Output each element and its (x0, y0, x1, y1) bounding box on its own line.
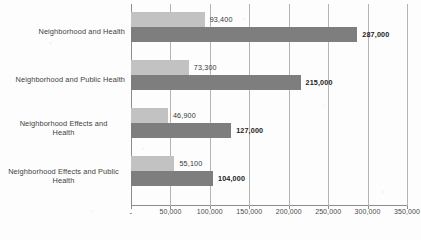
bar-dark-series-0 (131, 27, 357, 42)
category-label-neighborhood-effects-and-health: Neighborhood Effects and Health (0, 119, 127, 137)
bar-value-label-dark-series-3: 104,000 (218, 174, 245, 183)
category-label-line1: Neighborhood and Health (38, 27, 125, 36)
category-label-neighborhood-and-health: Neighborhood and Health (0, 27, 125, 36)
value-axis-label-300000: 300,000 (355, 208, 381, 215)
value-axis-tick-labels: -50,000100,000150,000200,000250,000300,0… (131, 208, 407, 222)
value-axis-label-200000: 200,000 (276, 208, 302, 215)
category-label-neighborhood-effects-and-public-health: Neighborhood Effects and Public Health (0, 167, 127, 185)
bar-value-label-light-series-1: 73,300 (194, 63, 217, 72)
gridline-350000 (407, 4, 408, 206)
bar-dark-series-1 (131, 75, 301, 90)
bar-light-series-2 (131, 108, 168, 123)
bar-light-series-0 (131, 12, 205, 27)
value-axis-label-250000: 250,000 (315, 208, 341, 215)
bar-value-label-dark-series-0: 287,000 (362, 30, 389, 39)
bar-value-label-dark-series-1: 215,000 (306, 78, 333, 87)
category-axis-labels: Neighborhood and Health Neighborhood and… (0, 0, 129, 206)
category-label-line1: Neighborhood Effects and (20, 119, 108, 128)
bar-light-series-3 (131, 156, 174, 171)
value-axis-label-100000: 100,000 (197, 208, 223, 215)
bar-value-label-dark-series-2: 127,000 (236, 126, 263, 135)
value-axis-label-150000: 150,000 (236, 208, 262, 215)
bar-value-label-light-series-2: 46,900 (173, 111, 196, 120)
plot-area: 93,40073,30046,90055,100287,000215,00012… (131, 4, 407, 206)
category-label-line2: Health (53, 128, 75, 137)
category-label-line2: Health (53, 176, 75, 185)
value-axis-label-zero: - (130, 208, 133, 217)
bar-value-label-light-series-3: 55,100 (179, 159, 202, 168)
bar-dark-series-2 (131, 123, 231, 138)
value-axis-label-50000: 50,000 (159, 208, 181, 215)
horizontal-bar-chart: Neighborhood and Health Neighborhood and… (0, 0, 421, 240)
value-axis-label-350000: 350,000 (394, 208, 420, 215)
category-label-line1: Neighborhood and Public Health (16, 75, 125, 84)
category-axis-line (131, 205, 407, 206)
category-label-neighborhood-and-public-health: Neighborhood and Public Health (0, 75, 125, 84)
bar-dark-series-3 (131, 171, 213, 186)
bar-light-series-1 (131, 60, 189, 75)
category-label-line1: Neighborhood Effects and Public (8, 167, 119, 176)
bar-value-label-light-series-0: 93,400 (210, 15, 233, 24)
